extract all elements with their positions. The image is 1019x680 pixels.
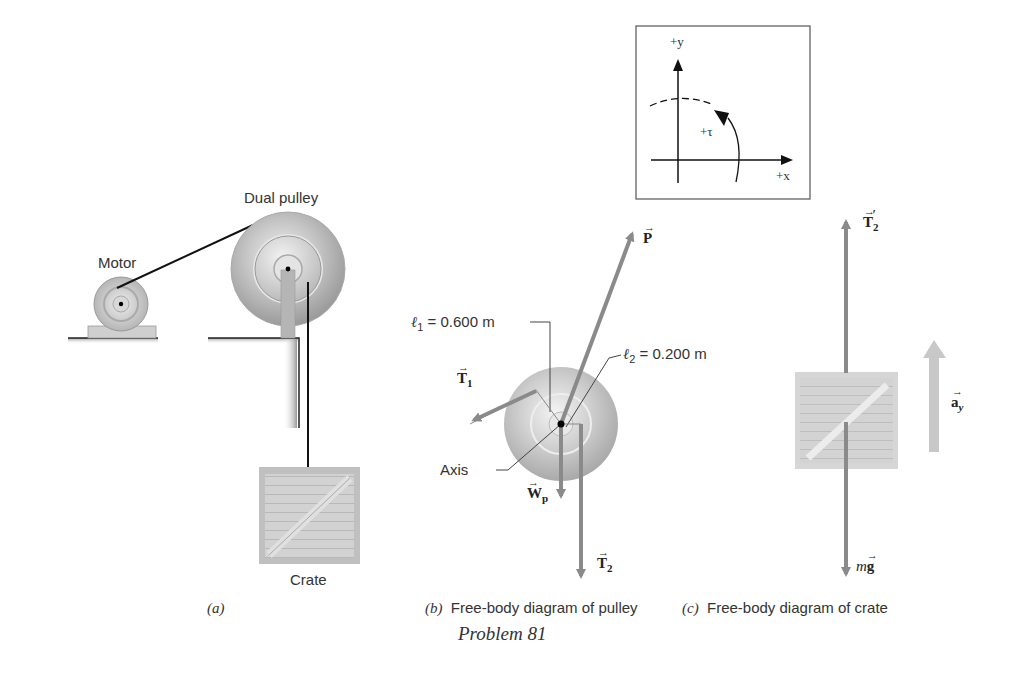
vector-T1-label: →T1 (457, 370, 473, 389)
problem-label: Problem 81 (458, 623, 546, 645)
y-axis-label: +y (670, 34, 684, 50)
crate-label: Crate (290, 571, 327, 588)
torque-label: +τ (700, 124, 713, 140)
vector-ay-label: →ay (951, 394, 963, 413)
vector-T2-label: →T2 (597, 555, 613, 574)
caption-c: (c) Free-body diagram of crate (682, 599, 888, 617)
motor-ground-shadow (68, 338, 158, 344)
motor-label: Motor (98, 254, 136, 271)
motor-shaft (119, 302, 123, 306)
figure-canvas (0, 0, 1019, 680)
panel-b-fbd (470, 234, 632, 576)
vector-T2prime-label: →T2′ (863, 214, 882, 233)
l1-dimension-label: ℓ1 = 0.600 m (411, 313, 495, 333)
pulley-axle (286, 267, 291, 272)
axis-label: Axis (440, 461, 468, 478)
panel-c-fbd (795, 222, 946, 574)
x-axis-label: +x (776, 168, 790, 184)
pulley-fbd-axis-dot (558, 421, 565, 428)
vector-Wp-label: →Wp (527, 485, 548, 504)
dual-pulley-label: Dual pulley (244, 189, 318, 206)
caption-a-letter: (a) (207, 600, 225, 617)
vector-mg-label: m→g (856, 558, 874, 575)
acceleration-arrow-shaft (929, 350, 939, 452)
pulley-arm (281, 270, 295, 338)
vector-P-label: →P (643, 230, 652, 247)
caption-b: (b) Free-body diagram of pulley (425, 599, 638, 617)
l2-dimension-label: ℓ2 = 0.200 m (623, 345, 707, 365)
acceleration-arrowhead-icon (923, 340, 946, 358)
